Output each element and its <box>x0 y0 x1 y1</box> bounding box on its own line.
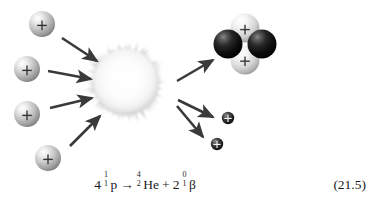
equation-number: (21.5) <box>333 174 366 196</box>
proton-1 <box>29 11 55 37</box>
helium-mass-atomic-numbers: 42 <box>137 176 143 190</box>
nuclide-beta: 01β <box>182 174 195 196</box>
beta-symbol: β <box>189 177 196 192</box>
nuclear-equation: 411p→42He+201β <box>0 174 290 196</box>
beta-mass-number: 0 <box>182 171 186 179</box>
beta-particle-2 <box>211 138 223 150</box>
helium-mass-number: 4 <box>137 171 141 179</box>
equation-coefficient-product-2: 2 <box>173 177 180 192</box>
nuclide-proton: 11p <box>104 174 117 196</box>
proton-4 <box>35 145 61 171</box>
equation-row: 411p→42He+201β (21.5) <box>0 174 372 200</box>
proton-mass-number: 1 <box>104 171 108 179</box>
beta-mass-atomic-numbers: 01 <box>182 176 188 190</box>
proton-2 <box>14 56 40 82</box>
beta-particle-1 <box>222 112 234 124</box>
proton-symbol: p <box>111 177 118 192</box>
proton-3 <box>14 101 40 127</box>
helium-atomic-number: 2 <box>137 180 141 188</box>
helium-neutron-right <box>248 30 277 59</box>
beta-atomic-number: 1 <box>182 180 186 188</box>
equation-coefficient-reactant: 4 <box>94 177 101 192</box>
fusion-figure: 411p→42He+201β (21.5) <box>0 0 372 208</box>
equation-plus-sign: + <box>162 177 170 192</box>
proton-atomic-number: 1 <box>104 180 108 188</box>
reaction-arrow: → <box>120 177 134 192</box>
nuclide-helium: 42He <box>137 174 159 196</box>
helium-neutron-left <box>214 30 243 59</box>
helium-symbol: He <box>143 177 159 192</box>
proton-mass-atomic-numbers: 11 <box>104 176 110 190</box>
